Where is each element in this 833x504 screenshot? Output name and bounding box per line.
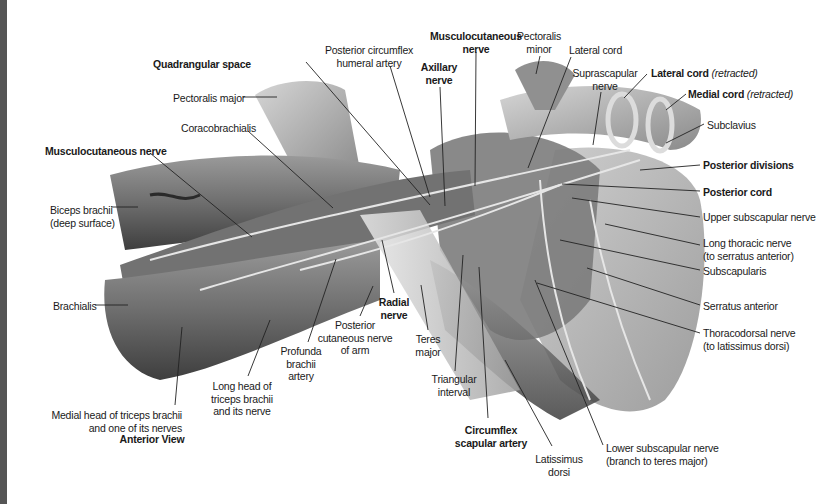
- label-circumflex-scapular-artery: Circumflexscapular artery: [455, 424, 527, 449]
- label-posterior-divisions: Posterior divisions: [703, 159, 794, 172]
- label-lateral-cord: Lateral cord: [569, 44, 622, 57]
- label-lateral-cord-retracted: Lateral cord (retracted): [651, 67, 758, 80]
- label-medial-head-triceps: Medial head of triceps brachiiand one of…: [51, 409, 182, 434]
- label-long-thoracic-nerve: Long thoracic nerve(to serratus anterior…: [703, 237, 794, 262]
- label-biceps-brachii: Biceps brachii(deep surface): [50, 204, 115, 229]
- label-triangular-interval: Triangularinterval: [432, 373, 477, 398]
- label-upper-subscapular-nerve: Upper subscapular nerve: [703, 211, 816, 224]
- label-brachialis: Brachialis: [53, 300, 97, 313]
- label-lower-subscapular-nerve: Lower subscapular nerve(branch to teres …: [606, 442, 719, 467]
- label-posterior-circumflex-humeral-artery: Posterior circumflexhumeral artery: [325, 44, 413, 69]
- label-profunda-brachii: Profundabrachiiartery: [280, 345, 321, 383]
- label-musculocutaneous-nerve-left: Musculocutaneous nerve: [45, 145, 167, 158]
- label-serratus-anterior: Serratus anterior: [703, 300, 778, 313]
- label-radial-nerve: Radialnerve: [379, 296, 409, 321]
- label-teres-major: Teresmajor: [415, 333, 440, 358]
- label-subscapularis: Subscapularis: [703, 265, 766, 278]
- label-pectoralis-minor: Pectoralisminor: [517, 30, 561, 55]
- label-medial-cord-retracted: Medial cord (retracted): [688, 88, 793, 101]
- label-thoracodorsal-nerve: Thoracodorsal nerve(to latissimus dorsi): [703, 327, 796, 352]
- label-latissimus-dorsi: Latissimusdorsi: [535, 453, 583, 478]
- label-posterior-cord: Posterior cord: [703, 186, 772, 199]
- label-suprascapular-nerve: Suprascapularnerve: [572, 67, 637, 92]
- label-musculocutaneous-nerve-top: Musculocutaneousnerve: [430, 30, 522, 55]
- label-long-head-triceps: Long head oftriceps brachiiand its nerve: [211, 380, 273, 418]
- label-axillary-nerve: Axillarynerve: [421, 61, 457, 86]
- label-quadrangular-space: Quadrangular space: [153, 58, 251, 71]
- label-subclavius: Subclavius: [707, 119, 756, 132]
- label-coracobrachialis: Coracobrachialis: [181, 122, 256, 135]
- view-caption: Anterior View: [120, 433, 185, 446]
- label-posterior-cutaneous-nerve: Posteriorcutaneous nerveof arm: [318, 319, 393, 357]
- label-pectoralis-major: Pectoralis major: [173, 92, 245, 105]
